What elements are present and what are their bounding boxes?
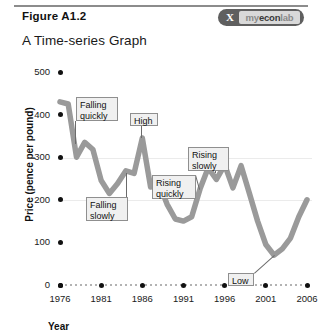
x-tick-dot-1976 — [58, 283, 63, 288]
x-axis-dot — [300, 284, 302, 286]
x-tick-dot-1991 — [181, 283, 186, 288]
x-axis-dot — [295, 284, 297, 286]
x-tick-label-1976: 1976 — [43, 293, 77, 304]
x-axis-title: Year — [48, 321, 69, 332]
annotation-falling-quickly: Fallingquickly — [76, 97, 118, 121]
annotation-falling-slowly: Fallingslowly — [86, 197, 128, 221]
myeconlab-wordmark: myeconlab — [239, 11, 300, 24]
x-axis-dot — [95, 284, 97, 286]
x-axis-dot — [285, 284, 287, 286]
x-axis-dot — [255, 284, 257, 286]
x-axis-dot — [275, 284, 277, 286]
annotation-line2: slowly — [192, 161, 225, 172]
x-tick-dot-1996 — [222, 283, 227, 288]
annotation-leader-falling-slowly — [126, 173, 127, 197]
x-axis-dot — [215, 284, 217, 286]
x-tick-label-1981: 1981 — [84, 293, 118, 304]
x-axis-dot — [90, 284, 92, 286]
logo-text-econ: econ — [259, 12, 280, 23]
annotation-line1: Falling — [90, 200, 124, 211]
x-axis-dot — [290, 284, 292, 286]
x-axis-dot — [210, 284, 212, 286]
x-tick-dot-2001 — [263, 283, 268, 288]
annotation-line1: High — [134, 116, 154, 127]
x-axis-dot — [80, 284, 82, 286]
x-axis-dot — [110, 284, 112, 286]
time-series-chart: 0100200300400500 Price (pence per pound)… — [0, 55, 320, 305]
x-axis-dot — [105, 284, 107, 286]
x-axis-dot — [195, 284, 197, 286]
figure-card: Figure A1.2 A Time-series Graph X myecon… — [0, 0, 320, 332]
annotation-line2: slowly — [90, 211, 124, 222]
annotation-line1: Falling — [80, 100, 114, 111]
annotation-rising-slowly: Risingslowly — [188, 147, 229, 171]
x-axis-dot — [75, 284, 77, 286]
x-axis-dot — [85, 284, 87, 286]
myeconlab-wordmark-plate: myeconlab — [239, 11, 300, 24]
x-tick-label-1996: 1996 — [208, 293, 242, 304]
x-axis-dot — [205, 284, 207, 286]
x-axis-dot — [190, 284, 192, 286]
x-tick-dot-1981 — [99, 283, 104, 288]
x-tick-label-1986: 1986 — [125, 293, 159, 304]
x-axis-dot — [125, 284, 127, 286]
logo-text-lab: lab — [280, 12, 293, 23]
figure-title: A Time-series Graph — [22, 33, 147, 48]
annotation-line1: Low — [232, 276, 250, 287]
x-tick-dot-1986 — [140, 283, 145, 288]
annotation-line1: Rising — [192, 150, 225, 161]
x-axis-dot — [65, 284, 67, 286]
x-axis-dot — [145, 284, 147, 286]
x-tick-label-2001: 2001 — [249, 293, 283, 304]
annotation-rising-quickly: Risingquickly — [152, 175, 196, 199]
annotation-line2: quickly — [80, 111, 114, 122]
annotation-high: High — [130, 113, 158, 126]
annotation-low: Low — [228, 273, 254, 286]
annotation-line1: Rising — [156, 178, 192, 189]
logo-text-my: my — [246, 12, 259, 23]
x-axis-dot — [135, 284, 137, 286]
annotation-line2: quickly — [156, 189, 192, 200]
x-axis-dot — [165, 284, 167, 286]
myeconlab-logo[interactable]: X myeconlab — [218, 9, 304, 26]
x-axis-dot — [280, 284, 282, 286]
x-axis-dot — [170, 284, 172, 286]
x-axis-dot — [70, 284, 72, 286]
x-axis-dot — [175, 284, 177, 286]
x-axis-dot — [120, 284, 122, 286]
x-tick-label-1991: 1991 — [167, 293, 201, 304]
x-axis-dot — [115, 284, 117, 286]
x-tick-label-2006: 2006 — [290, 293, 320, 304]
figure-number: Figure A1.2 — [22, 10, 86, 22]
header-divider — [14, 5, 308, 7]
x-axis-dot — [155, 284, 157, 286]
x-axis-dot — [150, 284, 152, 286]
x-tick-dot-2006 — [305, 283, 310, 288]
x-axis-dot — [200, 284, 202, 286]
myeconlab-x-icon: X — [222, 11, 238, 24]
x-axis-dot — [160, 284, 162, 286]
x-axis-dot — [260, 284, 262, 286]
x-axis-dot — [130, 284, 132, 286]
x-axis-dot — [270, 284, 272, 286]
